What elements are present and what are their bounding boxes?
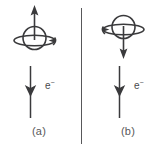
- electron-label-a: e−: [45, 80, 55, 91]
- vertical-divider: [81, 8, 82, 144]
- spin-down-diagram: [89, 0, 167, 66]
- electron-spin-figure: e− (a): [0, 0, 167, 149]
- panel-b: e− (b): [89, 0, 167, 149]
- electron-arrow-down: [114, 66, 125, 118]
- panel-a: e− (a): [0, 0, 78, 149]
- caption-b: (b): [89, 124, 167, 138]
- spin-axis-arrow-down: [120, 26, 128, 59]
- electron-path-b: e−: [89, 64, 167, 122]
- electron-path-a: e−: [0, 64, 78, 122]
- caption-a: (a): [0, 124, 78, 138]
- spin-up-diagram: [0, 0, 78, 66]
- electron-arrow-down: [25, 66, 36, 118]
- electron-label-b: e−: [134, 80, 144, 91]
